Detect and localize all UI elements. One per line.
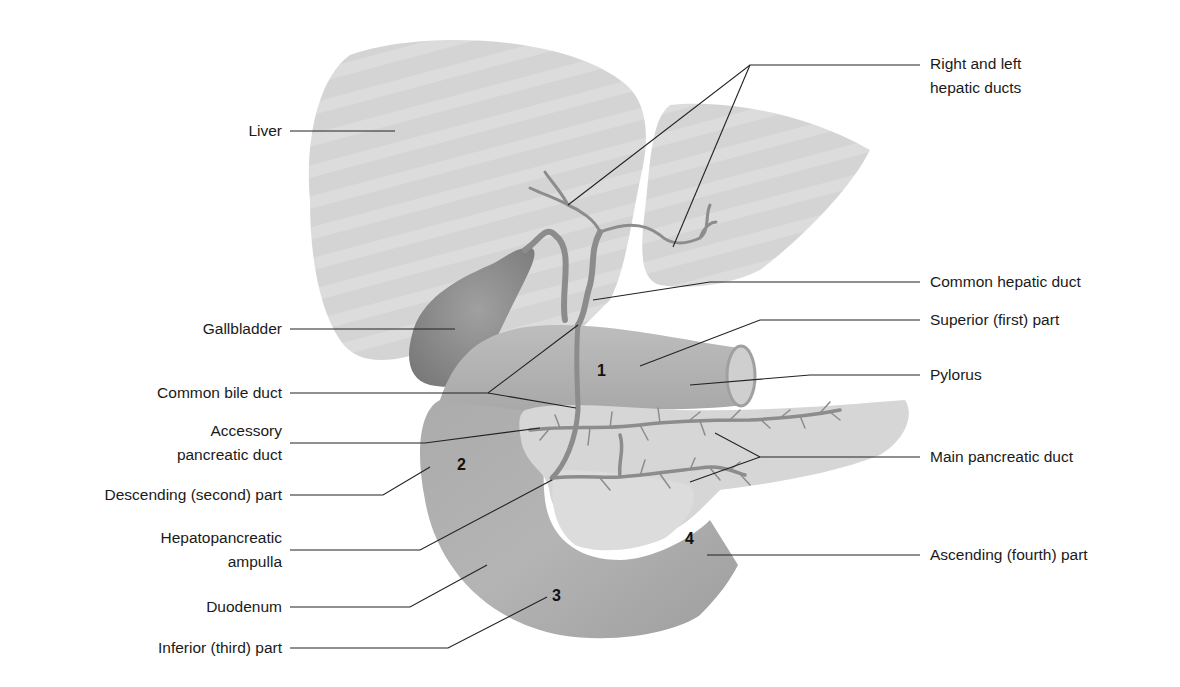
label-hepatic-ducts-line1: Right and left [930, 52, 1021, 76]
liver-left-lobe [642, 104, 870, 287]
label-gallbladder: Gallbladder [203, 317, 282, 341]
label-hepatic-ducts: Right and left hepatic ducts [930, 52, 1021, 100]
label-pylorus: Pylorus [930, 363, 982, 387]
label-ascending-part: Ascending (fourth) part [930, 543, 1088, 567]
label-accessory-pancreatic-duct: Accessory pancreatic duct [177, 419, 282, 467]
label-accessory-line1: Accessory [177, 419, 282, 443]
leader-common-hepatic-duct [593, 282, 920, 300]
label-main-pancreatic-duct: Main pancreatic duct [930, 445, 1073, 469]
label-duodenum: Duodenum [206, 595, 282, 619]
part-number-2: 2 [457, 456, 466, 474]
label-superior-part: Superior (first) part [930, 308, 1059, 332]
label-common-bile-duct: Common bile duct [157, 381, 282, 405]
label-hepatic-ducts-line2: hepatic ducts [930, 76, 1021, 100]
label-hepatopancreatic-ampulla: Hepatopancreatic ampulla [161, 526, 283, 574]
label-descending-part: Descending (second) part [105, 483, 283, 507]
part-number-1: 1 [597, 362, 606, 380]
label-ampulla-line1: Hepatopancreatic [161, 526, 283, 550]
part-number-3: 3 [552, 587, 561, 605]
pylorus-opening [727, 346, 755, 406]
leader-descending-part [290, 467, 430, 495]
label-accessory-line2: pancreatic duct [177, 443, 282, 467]
label-common-hepatic-duct: Common hepatic duct [930, 270, 1081, 294]
anatomy-diagram [0, 0, 1180, 687]
part-number-4: 4 [685, 530, 694, 548]
label-ampulla-line2: ampulla [161, 550, 283, 574]
pancreas-head [552, 470, 693, 550]
label-inferior-part: Inferior (third) part [158, 636, 282, 660]
label-liver: Liver [248, 119, 282, 143]
